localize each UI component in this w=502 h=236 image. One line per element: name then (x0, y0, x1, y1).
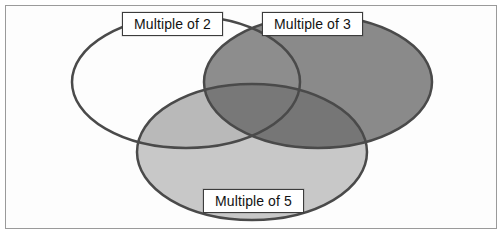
label-multiple-of-3: Multiple of 3 (262, 12, 363, 36)
label-multiple-of-2: Multiple of 2 (122, 12, 223, 36)
venn-diagram-page: Multiple of 2 Multiple of 3 Multiple of … (0, 0, 502, 236)
label-multiple-of-5: Multiple of 5 (203, 189, 304, 213)
